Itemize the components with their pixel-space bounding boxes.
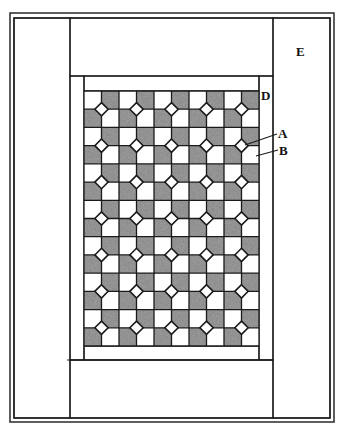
outer-border-bottom [70,360,273,418]
outer-border-top [70,18,273,76]
quilt-layout-drawing [0,0,347,431]
label-b-square: B [279,144,288,157]
outer-border-right [273,18,330,418]
inner-border-left [70,76,84,360]
inner-border-top [84,76,259,91]
block-grid [84,91,259,346]
quilt-diagram: E D A B [0,0,347,431]
inner-border-bottom [84,346,259,360]
inner-border-right [259,76,273,360]
label-e-outer-border: E [296,45,305,58]
outer-border-left [14,18,70,418]
label-d-inner-border: D [261,89,270,102]
label-a-diamond: A [278,127,287,140]
